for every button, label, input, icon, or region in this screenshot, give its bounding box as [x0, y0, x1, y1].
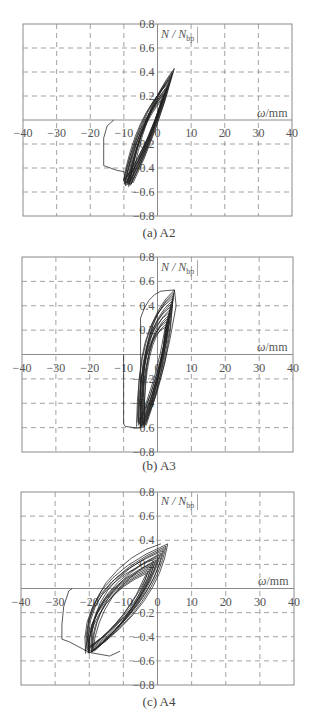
svg-text:−30: −30	[46, 595, 65, 609]
hysteresis-plot-a4: −40−30−20−100102030400.80.60.40.2−0.2−0.…	[0, 0, 318, 722]
svg-text:30: 30	[254, 595, 266, 609]
svg-text:0: 0	[155, 595, 161, 609]
svg-text:20: 20	[220, 595, 232, 609]
x-axis-label: ω/mm	[258, 574, 289, 589]
chart-panel-a4: −40−30−20−100102030400.80.60.40.2−0.2−0.…	[0, 0, 318, 722]
svg-text:−40: −40	[12, 595, 31, 609]
chart-caption: (c) A4	[0, 694, 318, 710]
svg-text:0.8: 0.8	[140, 485, 155, 499]
svg-text:−0.8: −0.8	[133, 678, 155, 692]
svg-text:0.4: 0.4	[140, 533, 155, 547]
svg-text:40: 40	[288, 595, 300, 609]
y-axis-label-main: N / N	[161, 494, 186, 508]
svg-text:−10: −10	[114, 595, 133, 609]
y-axis-label: N / Nbp	[161, 494, 198, 510]
x-axis-unit: /mm	[266, 574, 288, 588]
svg-text:0.6: 0.6	[140, 509, 155, 523]
svg-text:−0.4: −0.4	[133, 630, 155, 644]
svg-text:−0.6: −0.6	[133, 654, 155, 668]
svg-text:10: 10	[186, 595, 198, 609]
y-axis-label-sub: bp	[186, 501, 194, 510]
